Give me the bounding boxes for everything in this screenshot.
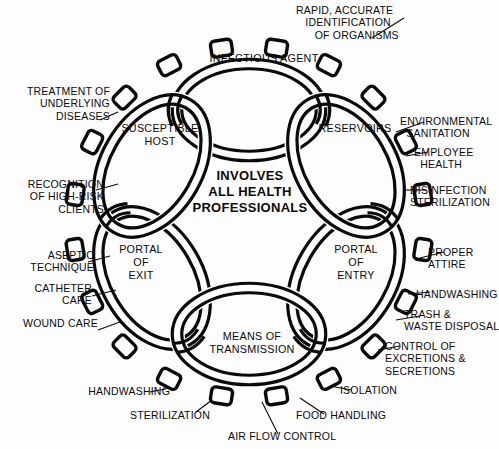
link-label-susceptible-host: SUSCEPTIBLE HOST bbox=[113, 122, 207, 148]
intervention-proper-attire: PROPER ATTIRE bbox=[428, 246, 499, 271]
intervention-treatment-underlying: TREATMENT OF UNDERLYING DISEASES bbox=[10, 85, 110, 122]
outer-chain-segment bbox=[210, 386, 233, 405]
intervention-control-of-excretions: CONTROL OF EXCRETIONS & SECRETIONS bbox=[385, 340, 499, 377]
intervention-sterilization: STERILIZATION bbox=[120, 409, 210, 421]
chain-of-infection-diagram: INFECTIOUS AGENT RESERVOIRS PORTAL OF EN… bbox=[0, 0, 499, 449]
intervention-isolation: ISOLATION bbox=[340, 384, 410, 396]
chain-link bbox=[264, 74, 429, 258]
link-label-portal-of-entry: PORTAL OF ENTRY bbox=[325, 243, 387, 282]
link-label-reservoirs: RESERVOIRS bbox=[312, 122, 398, 135]
outer-chain-segment bbox=[265, 386, 288, 405]
intervention-wound-care: WOUND CARE bbox=[6, 317, 98, 329]
intervention-handwashing-left: HANDWASHING bbox=[82, 385, 170, 397]
intervention-employee-health: EMPLOYEE HEALTH bbox=[414, 146, 499, 171]
intervention-trash-waste-disposal: TRASH & WASTE DISPOSAL bbox=[404, 308, 499, 333]
intervention-aseptic-technique: ASEPTIC TECHNIQUE bbox=[4, 249, 94, 274]
link-label-means-of-transmission: MEANS OF TRANSMISSION bbox=[196, 330, 308, 356]
center-text: INVOLVES ALL HEALTH PROFESSIONALS bbox=[176, 168, 324, 215]
leader-line bbox=[98, 322, 120, 330]
chain-graphic bbox=[0, 0, 499, 449]
intervention-rapid-identification: RAPID, ACCURATE IDENTIFICATION OF ORGANI… bbox=[296, 4, 466, 41]
intervention-recognition-high-risk: RECOGNITION OF HIGH-RISK CLIENTS bbox=[0, 178, 104, 215]
intervention-handwashing-right: HANDWASHING bbox=[416, 288, 499, 300]
outer-chain-segment bbox=[156, 53, 182, 77]
link-label-infectious-agent: INFECTIOUS AGENT bbox=[196, 52, 332, 65]
intervention-catheter-care: CATHETER CARE bbox=[14, 282, 92, 307]
intervention-air-flow-control: AIR FLOW CONTROL bbox=[228, 430, 338, 442]
intervention-food-handling: FOOD HANDLING bbox=[296, 409, 392, 421]
intervention-disinfection-sterilization: DISINFECTION STERILIZATION bbox=[410, 184, 499, 209]
intervention-environmental-sanitation: ENVIRONMENTAL SANITATION bbox=[400, 115, 499, 140]
link-label-portal-of-exit: PORTAL OF EXIT bbox=[110, 243, 172, 282]
